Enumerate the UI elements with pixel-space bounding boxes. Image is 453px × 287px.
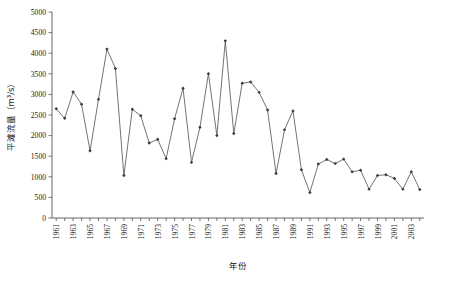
y-tick-label: 1000 xyxy=(31,173,46,182)
series-line-bankfull-discharge xyxy=(56,41,420,193)
x-tick-label: 1973 xyxy=(154,224,163,239)
data-point-marker xyxy=(334,162,337,165)
x-tick-label: 1999 xyxy=(374,224,383,239)
data-point-marker xyxy=(384,173,387,176)
data-point-marker xyxy=(308,191,311,194)
x-tick-label: 1983 xyxy=(238,224,247,239)
y-axis-title: 平滩流量（m³/s） xyxy=(6,79,16,152)
data-point-marker xyxy=(148,141,151,144)
data-point-marker xyxy=(300,168,303,171)
x-tick-label: 2003 xyxy=(407,224,416,239)
data-point-marker xyxy=(283,128,286,131)
x-axis-title: 年份 xyxy=(229,261,247,271)
x-tick-label: 1997 xyxy=(357,224,366,239)
data-point-marker xyxy=(173,117,176,120)
x-tick-label: 1987 xyxy=(272,224,281,239)
data-point-marker xyxy=(198,126,201,129)
y-tick-label: 500 xyxy=(35,193,47,202)
data-point-marker xyxy=(325,158,328,161)
x-tick-label: 1969 xyxy=(120,224,129,239)
x-tick-label: 1963 xyxy=(69,224,78,239)
data-point-marker xyxy=(410,170,413,173)
y-tick-label: 4500 xyxy=(31,28,46,37)
x-tick-label: 1977 xyxy=(188,224,197,239)
data-point-marker xyxy=(190,161,193,164)
x-tick-label: 1985 xyxy=(255,224,264,239)
y-tick-label: 5000 xyxy=(31,8,46,17)
data-point-marker xyxy=(215,134,218,137)
x-tick-label: 1961 xyxy=(52,224,61,239)
x-tick-label: 1965 xyxy=(86,224,95,239)
data-point-marker xyxy=(97,98,100,101)
data-point-marker xyxy=(274,172,277,175)
x-tick-label: 1981 xyxy=(221,224,230,239)
data-point-marker xyxy=(164,157,167,160)
data-point-marker xyxy=(88,149,91,152)
x-tick-label: 1991 xyxy=(306,224,315,239)
data-point-marker xyxy=(359,169,362,172)
data-point-marker xyxy=(122,174,125,177)
x-tick-label: 1975 xyxy=(171,224,180,239)
y-tick-label: 2500 xyxy=(31,111,46,120)
data-point-marker xyxy=(232,132,235,135)
y-tick-label: 1500 xyxy=(31,152,46,161)
data-point-marker xyxy=(114,67,117,70)
x-tick-label: 1971 xyxy=(137,224,146,239)
y-tick-label: 2000 xyxy=(31,131,46,140)
data-point-marker xyxy=(418,188,421,191)
data-point-marker xyxy=(266,108,269,111)
bankfull-discharge-chart: 0500100015002000250030003500400045005000… xyxy=(0,0,453,287)
y-tick-label: 0 xyxy=(42,214,46,223)
data-point-marker xyxy=(291,109,294,112)
x-tick-label: 1979 xyxy=(204,224,213,239)
data-point-marker xyxy=(207,72,210,75)
x-tick-label: 1967 xyxy=(103,224,112,239)
data-point-marker xyxy=(156,138,159,141)
data-point-marker xyxy=(181,87,184,90)
data-point-marker xyxy=(241,82,244,85)
x-tick-label: 2001 xyxy=(390,224,399,239)
x-tick-label: 1993 xyxy=(323,224,332,239)
data-point-marker xyxy=(224,39,227,42)
data-point-marker xyxy=(317,162,320,165)
x-tick-label: 1995 xyxy=(340,224,349,239)
data-point-marker xyxy=(105,47,108,50)
y-tick-label: 4000 xyxy=(31,49,46,58)
y-tick-label: 3500 xyxy=(31,70,46,79)
chart-svg: 0500100015002000250030003500400045005000… xyxy=(0,0,453,287)
x-tick-label: 1989 xyxy=(289,224,298,239)
y-tick-label: 3000 xyxy=(31,90,46,99)
